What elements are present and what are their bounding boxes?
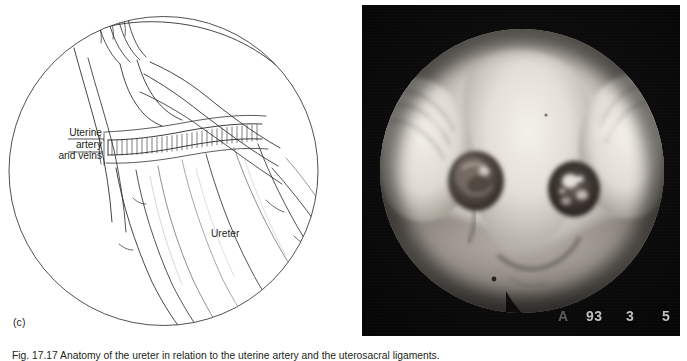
label-uterine-line-2: artery <box>16 139 102 151</box>
scope-image-content <box>380 29 664 313</box>
anatomical-line-drawing <box>0 0 352 345</box>
endoscopic-photograph: A 93 3 5 <box>362 5 680 336</box>
upper-left-highlight <box>424 116 448 134</box>
stamp-letter: A <box>558 308 586 324</box>
debris-speck-2 <box>544 113 547 116</box>
photograph-inner: A 93 3 5 <box>362 5 680 336</box>
diagram-circle-frame <box>9 17 318 326</box>
stamp-year: 93 <box>586 308 626 324</box>
figure-caption: Fig. 17.17 Anatomy of the ureter in rela… <box>12 350 672 361</box>
stamp-month: 3 <box>626 308 662 324</box>
upper-right-highlight <box>594 119 622 139</box>
label-ureter: Ureter <box>211 228 239 240</box>
label-uterine-artery-and-veins: Uterine artery and veins <box>16 127 102 162</box>
stamp-day: 5 <box>662 308 680 324</box>
label-uterine-line-3: and veins <box>16 150 102 162</box>
debris-speck <box>492 277 497 282</box>
panel-letter-c: (c) <box>13 316 26 328</box>
panel-c-diagram: Uterine artery and veins Ureter (c) <box>0 0 352 345</box>
figure-page: Uterine artery and veins Ureter (c) <box>0 0 687 361</box>
right-operative-site <box>548 161 600 217</box>
label-uterine-line-1: Uterine <box>16 127 102 139</box>
camera-date-stamp: A 93 3 5 <box>558 308 680 324</box>
scope-aperture <box>380 29 664 313</box>
